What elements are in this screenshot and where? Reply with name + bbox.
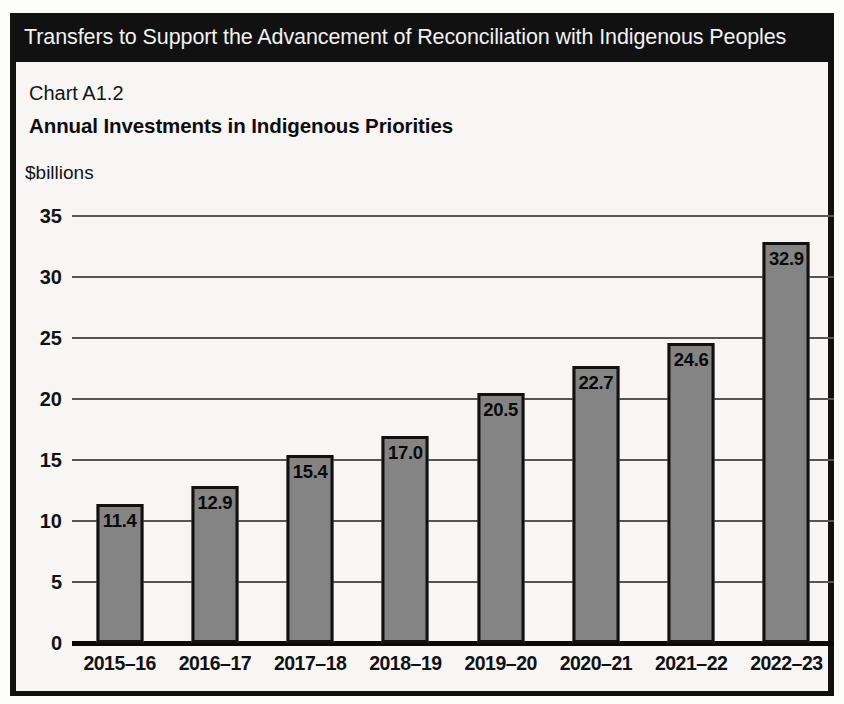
bar[interactable]: 11.4 — [96, 504, 143, 643]
bar[interactable]: 22.7 — [572, 366, 619, 643]
chart-card-inner: Chart A1.2 Annual Investments in Indigen… — [16, 62, 828, 691]
bar-value-label: 11.4 — [103, 510, 137, 532]
y-axis-tick-label: 35 — [22, 205, 62, 228]
bar-value-label: 12.9 — [197, 492, 232, 514]
plot-area: 05101520253035 11.412.915.417.020.522.72… — [16, 62, 828, 696]
chart-card: Chart A1.2 Annual Investments in Indigen… — [10, 62, 834, 696]
y-axis-tick-label: 0 — [22, 632, 62, 655]
bar-value-label: 22.7 — [578, 372, 613, 394]
y-axis-tick-label: 20 — [22, 388, 62, 411]
bar-value-label: 20.5 — [483, 399, 518, 421]
bar-slot: 15.4 — [263, 642, 358, 643]
y-axis-tick-label: 10 — [22, 510, 62, 533]
section-header-band: Transfers to Support the Advancement of … — [10, 13, 834, 62]
bar[interactable]: 32.9 — [763, 242, 810, 643]
bars-group: 11.412.915.417.020.522.724.632.9 — [72, 62, 834, 696]
bar[interactable]: 15.4 — [287, 455, 334, 643]
x-axis-tick-label: 2018–19 — [358, 652, 453, 675]
bar-slot: 32.9 — [739, 642, 834, 643]
bar[interactable]: 20.5 — [477, 393, 524, 643]
x-axis-tick-label: 2020–21 — [548, 652, 643, 675]
y-axis-tick-label: 25 — [22, 327, 62, 350]
bar[interactable]: 17.0 — [382, 436, 429, 643]
bar-slot: 22.7 — [548, 642, 643, 643]
bar-value-label: 17.0 — [388, 442, 423, 464]
x-axis-tick-label: 2022–23 — [739, 652, 834, 675]
x-axis-tick-label: 2021–22 — [644, 652, 739, 675]
bar-slot: 24.6 — [644, 642, 739, 643]
bar-value-label: 32.9 — [769, 248, 804, 270]
section-header-title: Transfers to Support the Advancement of … — [24, 25, 786, 50]
bar-value-label: 24.6 — [674, 349, 709, 371]
bar-slot: 11.4 — [72, 642, 167, 643]
x-axis-tick-label: 2015–16 — [72, 652, 167, 675]
y-axis-tick-label: 30 — [22, 266, 62, 289]
y-axis-tick-label: 15 — [22, 449, 62, 472]
x-axis-tick-label: 2016–17 — [167, 652, 262, 675]
chart-page: Transfers to Support the Advancement of … — [0, 0, 844, 704]
y-axis-tick-label: 5 — [22, 571, 62, 594]
bar-slot: 12.9 — [167, 642, 262, 643]
bar[interactable]: 12.9 — [191, 486, 238, 643]
bar-slot: 17.0 — [358, 642, 453, 643]
bar-slot: 20.5 — [453, 642, 548, 643]
bar-value-label: 15.4 — [293, 461, 328, 483]
x-axis-labels-group: 2015–162016–172017–182018–192019–202020–… — [72, 652, 834, 692]
bar[interactable]: 24.6 — [668, 343, 715, 643]
x-axis-tick-label: 2019–20 — [453, 652, 548, 675]
x-axis-tick-label: 2017–18 — [263, 652, 358, 675]
